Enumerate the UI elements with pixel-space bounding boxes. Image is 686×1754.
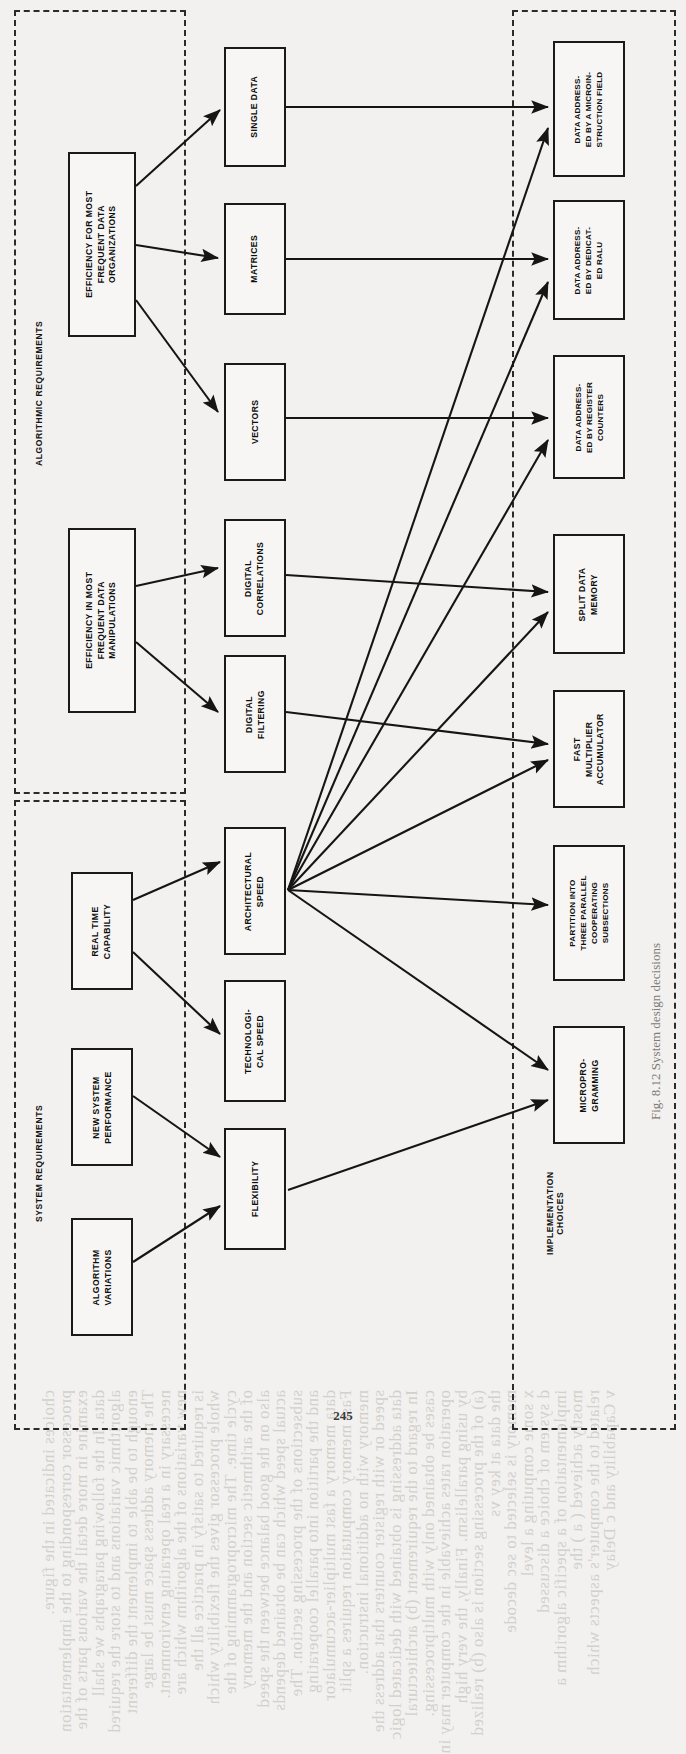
node-label: EFFICIENCY FOR MOST FREQUENT DATA ORGANI… [85, 191, 120, 298]
bleed-line: (a) of the processing section is also (b… [468, 1390, 488, 1736]
figure-caption: Fig. 8.12 System design decisions [648, 943, 664, 1120]
node-label: MATRICES [249, 235, 261, 283]
node-label: ARCHITECTURAL SPEED [244, 851, 267, 930]
node-label: VECTORS [249, 400, 261, 445]
bleed-line: data addressing is obtained with dedicat… [386, 1390, 406, 1740]
node-data-addressed-by-a-microinstruction-field[interactable]: DATA ADDRESS- ED BY A MICROIN- STRUCTION… [553, 41, 625, 177]
node-label: DATA ADDRESS- ED BY REGISTER COUNTERS [573, 381, 606, 452]
node-flexibility[interactable]: FLEXIBILITY [224, 1128, 286, 1250]
node-new-system-performance[interactable]: NEW SYSTEM PERFORMANCE [71, 1048, 133, 1166]
node-fast-multiplier-accumulator[interactable]: FAST MULTIPLIER ACCUMULATOR [553, 690, 625, 808]
node-label: DATA ADDRESS- ED BY A MICROIN- STRUCTION… [573, 71, 606, 147]
node-matrices[interactable]: MATRICES [224, 203, 286, 315]
node-algorithm-variations[interactable]: ALGORITHM VARIATIONS [71, 1218, 133, 1336]
node-label: REAL TIME CAPABILITY [91, 903, 114, 958]
node-architectural-speed[interactable]: ARCHITECTURAL SPEED [224, 827, 286, 955]
group-label-implementation-choices: IMPLEMENTATIONCHOICES [545, 1171, 565, 1255]
node-label: PARTITION INTO THREE PARALLEL COOPERATIN… [567, 875, 611, 950]
node-digital-correlations[interactable]: DIGITAL CORRELATIONS [224, 519, 286, 637]
node-partition-into-three-parallel-cooperating-subsections[interactable]: PARTITION INTO THREE PARALLEL COOPERATIN… [553, 845, 625, 981]
bleed-line: operation rates achievable in the comput… [435, 1390, 455, 1754]
node-technological-speed[interactable]: TECHNOLOGI- CAL SPEED [224, 980, 286, 1102]
node-efficiency-in-most-frequent-data-manipulations[interactable]: EFFICIENCY IN MOST FREQUENT DATA MANIPUL… [68, 528, 136, 713]
node-label: TECHNOLOGI- CAL SPEED [244, 1008, 267, 1073]
node-efficiency-for-most-frequent-data-organizations[interactable]: EFFICIENCY FOR MOST FREQUENT DATA ORGANI… [68, 152, 136, 337]
node-data-addressed-by-register-counters[interactable]: DATA ADDRESS- ED BY REGISTER COUNTERS [553, 355, 625, 479]
node-microprogramming[interactable]: MICROPRO- GRAMMING [553, 1026, 625, 1144]
bleed-line: algorithmic variations and to store the … [105, 1390, 125, 1733]
node-label: SPLIT DATA MEMORY [578, 567, 601, 621]
node-label: SINGLE DATA [249, 76, 261, 138]
bleed-line: speed or with register counters that add… [369, 1390, 389, 1733]
node-real-time-capability[interactable]: REAL TIME CAPABILITY [71, 872, 133, 990]
node-label: MICROPRO- GRAMMING [578, 1058, 601, 1112]
node-label: ALGORITHM VARIATIONS [90, 1249, 113, 1305]
node-label: FLEXIBILITY [249, 1161, 261, 1218]
node-label: DIGITAL FILTERING [243, 690, 266, 739]
node-label: FAST MULTIPLIER ACCUMULATOR [572, 713, 607, 785]
page-number: 245 [0, 1408, 686, 1424]
node-split-data-memory[interactable]: SPLIT DATA MEMORY [553, 534, 625, 654]
node-label: EFFICIENCY IN MOST FREQUENT DATA MANIPUL… [85, 572, 120, 669]
group-label-system-requirements: SYSTEM REQUIREMENTS [34, 1105, 44, 1222]
node-label: DATA ADDRESS- ED BY DEDICAT- ED RALU [572, 226, 605, 294]
node-label: NEW SYSTEM PERFORMANCE [91, 1071, 114, 1143]
node-data-addressed-by-dedicated-ralu[interactable]: DATA ADDRESS- ED BY DEDICAT- ED RALU [553, 200, 625, 320]
node-digital-filtering[interactable]: DIGITAL FILTERING [224, 655, 286, 773]
node-single-data[interactable]: SINGLE DATA [224, 47, 286, 167]
node-vectors[interactable]: VECTORS [224, 363, 286, 481]
bleed-line: processor corresponding to the implement… [56, 1390, 76, 1733]
group-label-algorithmic-requirements: ALGORITHMIC REQUIREMENTS [34, 321, 44, 466]
node-label: DIGITAL CORRELATIONS [244, 541, 267, 615]
